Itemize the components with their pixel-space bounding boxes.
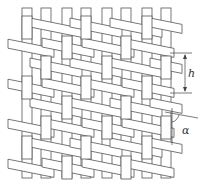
vertical-strip-over [121,156,131,179]
vertical-strip-over [102,56,112,79]
alpha-label: α [182,124,190,137]
vertical-strip-over [121,36,131,59]
vertical-strip-over [62,96,72,119]
vertical-strip-over [62,156,72,179]
vertical-strip-over [81,136,91,159]
vertical-strip-over [161,116,171,139]
vertical-strip-over [81,16,91,39]
vertical-strip-over [81,76,91,99]
vertical-strip-over [161,56,171,79]
vertical-strip-over [142,136,152,159]
vertical-strip-over [142,16,152,39]
h-label: h [188,67,195,80]
vertical-strip-over [22,16,32,39]
weave-diagram: h α [0,0,205,192]
vertical-strip-over [121,96,131,119]
vertical-strip-over [41,56,51,79]
vertical-strip-over [102,116,112,139]
arrow-down-icon [183,87,187,92]
arrow-up-icon [183,54,187,59]
vertical-strip-over [142,76,152,99]
vertical-strip-over [62,36,72,59]
vertical-strip-over [22,136,32,159]
height-dimension: h [170,53,195,93]
weave-pattern [8,8,182,179]
vertical-strip-over [41,116,51,139]
vertical-strip-over [22,76,32,99]
